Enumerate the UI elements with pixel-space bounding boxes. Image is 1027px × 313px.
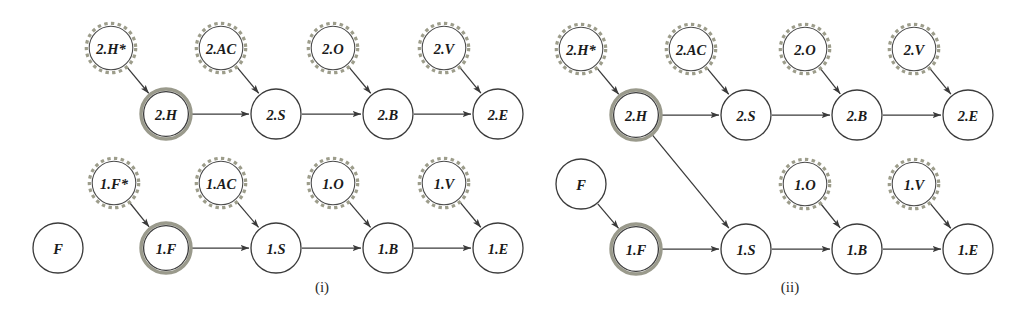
node-label: 2.AC [205, 41, 237, 57]
graph-node[interactable]: 1.F [611, 224, 661, 274]
network-diagram-canvas: 2.H*2.AC2.O2.V2.H2.S2.B2.E1.F*1.AC1.O1.V… [0, 0, 1027, 313]
figure-root: 2.H*2.AC2.O2.V2.H2.S2.B2.E1.F*1.AC1.O1.V… [0, 0, 1027, 313]
nodes-layer: 2.H*2.AC2.O2.V2.H2.S2.B2.E1.F*1.AC1.O1.V… [33, 23, 993, 274]
edges-layer [127, 68, 951, 249]
node-label: F [52, 241, 63, 257]
panel-caption: (i) [315, 279, 329, 296]
node-label: 2.O [321, 41, 344, 57]
node-label: 2.B [846, 108, 868, 124]
node-label: F [575, 177, 586, 193]
node-label: 1.E [958, 242, 979, 258]
node-label: 1.S [267, 241, 286, 257]
edge-arrow [460, 68, 481, 93]
graph-node[interactable]: 2.E [943, 90, 993, 140]
node-label: 1.F* [100, 176, 129, 192]
graph-node[interactable]: F [556, 159, 606, 209]
graph-node[interactable]: 2.B [363, 89, 413, 139]
graph-node[interactable]: 2.H [141, 89, 191, 139]
graph-node[interactable]: 2.AC [666, 24, 715, 73]
node-label: 1.E [488, 241, 509, 257]
graph-node[interactable]: 1.F [141, 223, 191, 273]
graph-node[interactable]: 1.E [943, 224, 993, 274]
panel-caption: (ii) [781, 279, 799, 296]
node-label: 1.V [434, 176, 456, 192]
edge-arrow [930, 69, 951, 94]
graph-node[interactable]: 2.S [721, 90, 771, 140]
edge-arrow [237, 68, 258, 94]
node-label: 1.F [626, 242, 647, 258]
node-label: 2.E [957, 108, 979, 124]
node-label: 1.B [378, 241, 399, 257]
edge-arrow [127, 68, 148, 94]
node-label: 2.H [154, 107, 178, 123]
graph-node[interactable]: 1.B [832, 224, 882, 274]
graph-node[interactable]: 1.AC [196, 158, 245, 207]
node-label: 1.O [322, 176, 344, 192]
graph-node[interactable]: 2.S [251, 89, 301, 139]
edge-arrow [821, 69, 840, 94]
graph-node[interactable]: 1.O [780, 159, 829, 208]
edge-arrow [238, 203, 259, 228]
node-label: 2.H* [95, 41, 126, 57]
node-label: 2.H [624, 108, 648, 124]
graph-node[interactable]: 2.V [889, 24, 938, 73]
graph-node[interactable]: 2.V [419, 23, 468, 72]
node-label: 2.V [903, 42, 926, 58]
node-label: 2.S [736, 108, 756, 124]
node-label: 2.O [793, 42, 816, 58]
graph-node[interactable]: 2.B [832, 90, 882, 140]
graph-node[interactable]: 1.V [889, 159, 938, 208]
graph-node[interactable]: 1.E [473, 223, 523, 273]
edge-arrow [598, 204, 619, 229]
node-label: 1.S [737, 242, 756, 258]
node-label: 1.V [904, 177, 926, 193]
edge-arrow [821, 204, 840, 228]
node-label: 2.H* [565, 42, 596, 58]
graph-node[interactable]: 2.H* [556, 24, 605, 73]
node-label: 2.V [433, 41, 456, 57]
edge-arrow [350, 203, 371, 228]
node-label: 2.AC [675, 42, 707, 58]
captions-layer: (i)(ii) [315, 279, 799, 296]
edge-arrow [349, 68, 370, 94]
graph-node[interactable]: 1.O [308, 158, 357, 207]
graph-node[interactable]: 1.V [419, 158, 468, 207]
edge-arrow [597, 69, 618, 95]
edge-arrow [460, 203, 480, 228]
graph-node[interactable]: 2.H [611, 90, 661, 140]
edge-arrow [653, 135, 729, 228]
node-label: 2.B [377, 107, 399, 123]
edge-arrow [707, 69, 728, 95]
node-label: 1.B [847, 242, 868, 258]
node-label: 2.E [487, 107, 509, 123]
node-label: 1.AC [206, 176, 237, 192]
graph-node[interactable]: 1.S [251, 223, 301, 273]
graph-node[interactable]: 1.B [363, 223, 413, 273]
graph-node[interactable]: 1.S [721, 224, 771, 274]
node-label: 2.S [266, 107, 286, 123]
graph-node[interactable]: 2.H* [86, 23, 135, 72]
graph-node[interactable]: 2.E [473, 89, 523, 139]
graph-node[interactable]: 2.O [308, 23, 357, 72]
graph-node[interactable]: 2.O [780, 24, 829, 73]
edge-arrow [930, 204, 950, 229]
node-label: 1.O [794, 177, 816, 193]
edge-arrow [130, 203, 149, 227]
node-label: 1.F [156, 241, 177, 257]
graph-node[interactable]: 2.AC [196, 23, 245, 72]
graph-node[interactable]: F [33, 223, 83, 273]
graph-node[interactable]: 1.F* [89, 158, 138, 207]
